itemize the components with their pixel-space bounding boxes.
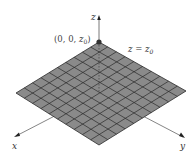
plane-equation-label: z = z0 (127, 44, 153, 55)
plane-figure: z x y (0, 0, z0) z = z0 (0, 0, 196, 156)
x-axis-label: x (12, 141, 17, 151)
point-0-0-z0 (96, 39, 101, 44)
point-label: (0, 0, z0) (54, 34, 91, 45)
x-axis-arrow-icon (14, 133, 20, 138)
z-axis-label: z (90, 12, 96, 22)
y-axis-label: y (179, 141, 186, 151)
y-axis-arrow-icon (179, 133, 185, 139)
z-axis-arrow-icon (97, 15, 101, 20)
